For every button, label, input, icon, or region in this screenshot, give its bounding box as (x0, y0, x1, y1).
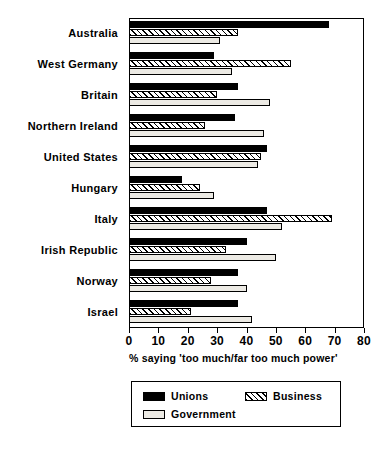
bar-unions-west-germany (129, 52, 214, 59)
bar-government-irish-republic (129, 254, 276, 261)
x-axis-tick-label: 80 (357, 334, 371, 348)
bar-government-northern-ireland (129, 130, 264, 137)
y-axis-tick-label: Northern Ireland (0, 111, 124, 142)
x-axis-tick-label: 40 (240, 334, 254, 348)
bar-government-hungary (129, 192, 214, 199)
y-axis-tick-label: Britain (0, 80, 124, 111)
bar-business-australia (129, 29, 238, 36)
bar-unions-norway (129, 269, 238, 276)
bar-government-west-germany (129, 68, 232, 75)
bar-group (129, 235, 364, 266)
bar-chart: Australia West Germany Britain Northern … (0, 0, 389, 451)
legend-swatch-unions (143, 392, 165, 401)
bar-unions-italy (129, 207, 267, 214)
bar-unions-northern-ireland (129, 114, 235, 121)
bar-unions-britain (129, 83, 238, 90)
legend-item-business: Business (245, 390, 322, 402)
bar-group (129, 297, 364, 328)
x-axis-tick-label: 30 (210, 334, 224, 348)
x-axis-tick (335, 328, 336, 333)
bar-group (129, 18, 364, 49)
bar-business-northern-ireland (129, 122, 205, 129)
bar-unions-israel (129, 300, 238, 307)
bar-unions-irish-republic (129, 238, 247, 245)
bar-group (129, 111, 364, 142)
x-axis-tick-label: 60 (298, 334, 312, 348)
legend-label-government: Government (171, 408, 236, 420)
x-axis-tick (188, 328, 189, 333)
y-axis-tick-label: West Germany (0, 49, 124, 80)
bar-business-united-states (129, 153, 261, 160)
x-axis-tick-label: 0 (126, 334, 133, 348)
bar-business-hungary (129, 184, 200, 191)
legend-item-unions: Unions (143, 390, 208, 402)
bar-government-israel (129, 316, 252, 323)
x-axis-tick-labels: 01020304050607080 (129, 334, 364, 350)
bar-group (129, 204, 364, 235)
x-axis-tick (217, 328, 218, 333)
legend-swatch-business (245, 392, 267, 401)
bar-government-australia (129, 37, 220, 44)
bar-group (129, 173, 364, 204)
bar-group (129, 49, 364, 80)
bar-business-italy (129, 215, 332, 222)
bar-series-layer (129, 18, 364, 328)
bar-government-italy (129, 223, 282, 230)
bar-government-britain (129, 99, 270, 106)
x-axis-tick-label: 50 (269, 334, 283, 348)
bar-government-norway (129, 285, 247, 292)
x-axis-title: % saying 'too much/far too much power' (129, 352, 379, 364)
bar-unions-australia (129, 21, 329, 28)
legend: Unions Business Government (131, 381, 341, 427)
legend-item-government: Government (143, 408, 236, 420)
bar-unions-hungary (129, 176, 182, 183)
legend-label-business: Business (273, 390, 322, 402)
y-axis-tick-label: Italy (0, 204, 124, 235)
x-axis-tick (247, 328, 248, 333)
bar-group (129, 80, 364, 111)
bar-business-israel (129, 308, 191, 315)
bar-unions-united-states (129, 145, 267, 152)
x-axis-tick-label: 70 (328, 334, 342, 348)
x-axis-tick (364, 328, 365, 333)
bar-business-west-germany (129, 60, 291, 67)
bar-business-britain (129, 91, 217, 98)
x-axis-tick (158, 328, 159, 333)
x-axis-tick-label: 20 (181, 334, 195, 348)
y-axis-tick-label: Australia (0, 18, 124, 49)
y-axis-tick-label: Irish Republic (0, 235, 124, 266)
x-axis-tick (129, 328, 130, 333)
x-axis-tick (276, 328, 277, 333)
y-axis-tick-label: Norway (0, 266, 124, 297)
y-axis-tick-label: Israel (0, 297, 124, 328)
y-axis-tick-label: United States (0, 142, 124, 173)
x-axis-tick-label: 10 (151, 334, 165, 348)
legend-swatch-government (143, 410, 165, 419)
bar-business-irish-republic (129, 246, 226, 253)
y-axis-category-labels: Australia West Germany Britain Northern … (0, 18, 124, 328)
x-axis-tick (305, 328, 306, 333)
bar-group (129, 266, 364, 297)
bar-government-united-states (129, 161, 258, 168)
bar-group (129, 142, 364, 173)
legend-label-unions: Unions (171, 390, 208, 402)
y-axis-tick-label: Hungary (0, 173, 124, 204)
bar-business-norway (129, 277, 211, 284)
